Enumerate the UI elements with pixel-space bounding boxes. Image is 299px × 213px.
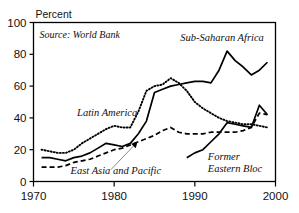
x-axis-tick-label: 1980 <box>101 190 127 202</box>
y-axis-tick-label: 60 <box>14 80 27 92</box>
series-label: East Asia and Pacific <box>70 165 162 176</box>
y-axis-unit-label: Percent <box>36 8 72 20</box>
series-line <box>42 51 268 161</box>
y-axis-tick-label: 80 <box>14 48 27 60</box>
series-label: Latin America <box>76 107 137 118</box>
y-axis-tick-label: 40 <box>14 112 27 124</box>
source-note: Source: World Bank <box>40 29 121 40</box>
x-axis-tick-label: 1970 <box>21 190 47 202</box>
y-axis-tick-label: 100 <box>7 17 26 29</box>
series-line <box>42 78 268 153</box>
series-label: Former <box>207 151 241 162</box>
x-axis-tick-label: 2000 <box>263 190 289 202</box>
series-label: Sub-Saharan Africa <box>180 32 264 43</box>
line-chart: 0204060801001970198019902000PercentSourc… <box>0 0 299 213</box>
y-axis-tick-label: 0 <box>20 176 26 188</box>
chart-figure: 0204060801001970198019902000PercentSourc… <box>0 0 299 213</box>
series-label: Eastern Bloc <box>207 163 263 174</box>
x-axis-tick-label: 1990 <box>182 190 208 202</box>
y-axis-tick-label: 20 <box>14 144 27 156</box>
